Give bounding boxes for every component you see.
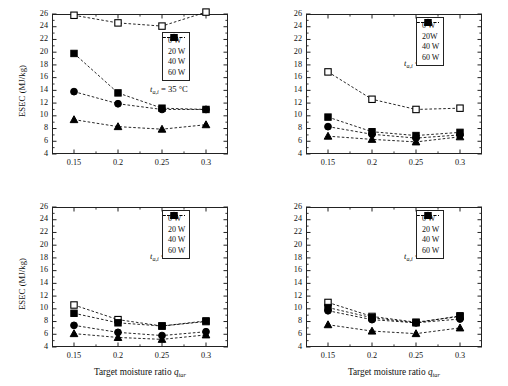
- x-tick-label: 0.3: [442, 158, 478, 167]
- axis-ticks: [52, 14, 228, 154]
- y-tick-label: 4: [280, 149, 302, 158]
- y-tick-label: 22: [26, 227, 48, 236]
- legend-item-40w[interactable]: 40 W: [420, 235, 439, 246]
- axis-ticks: [306, 207, 482, 347]
- legend-label: 20 W: [168, 225, 185, 234]
- y-tick-label: 6: [280, 136, 302, 145]
- legend-label: 40 W: [422, 235, 439, 244]
- legend-item-20w[interactable]: 20 W: [420, 224, 439, 235]
- legend-item-60w[interactable]: 60 W: [420, 52, 439, 63]
- x-tick-label: 0.2: [354, 351, 390, 360]
- y-tick-label: 16: [26, 72, 48, 81]
- legend-item-40w[interactable]: 40 W: [420, 42, 439, 53]
- x-tick-label: 0.3: [188, 351, 224, 360]
- data-point-marker: [158, 125, 166, 132]
- legend-item-20w[interactable]: 20W: [420, 31, 439, 42]
- legend-marker-filled-triangle: [163, 33, 185, 42]
- data-point-marker: [71, 302, 77, 308]
- y-tick-label: 16: [26, 265, 48, 274]
- x-tick-label: 0.25: [144, 351, 180, 360]
- y-tick-label: 10: [280, 110, 302, 119]
- y-tick-label: 10: [26, 303, 48, 312]
- legend-marker-filled-triangle: [163, 211, 185, 220]
- x-tick-label: 0.3: [442, 351, 478, 360]
- legend-label: 60 W: [422, 53, 439, 62]
- data-point-marker: [324, 321, 332, 328]
- plot-legend: 0 W20 W40 W60 W: [162, 32, 190, 81]
- data-point-marker: [325, 123, 332, 130]
- legend-item-60w[interactable]: 60 W: [166, 67, 185, 78]
- figure-esec-moisture-ratio: 4681012141618202224260.150.20.250.3ESEC …: [0, 0, 508, 386]
- data-point-marker: [325, 114, 331, 120]
- data-point-marker: [203, 9, 209, 15]
- y-tick-label: 12: [26, 98, 48, 107]
- data-point-marker: [413, 319, 420, 326]
- legend-item-60w[interactable]: 60 W: [166, 245, 185, 256]
- x-axis-label: Target moisture ratio qtar: [306, 367, 482, 378]
- y-tick-label: 16: [280, 72, 302, 81]
- y-tick-label: 26: [26, 9, 48, 18]
- data-point-marker: [324, 132, 332, 139]
- chart-panel-panel-c: 4681012141618202224260.150.20.250.3ESEC …: [0, 193, 254, 386]
- y-tick-label: 22: [280, 227, 302, 236]
- chart-panel-panel-b: 4681012141618202224260.150.20.250.3ta,i …: [254, 0, 508, 193]
- data-point-marker: [115, 90, 121, 96]
- legend-item-20w[interactable]: 20 W: [166, 224, 185, 235]
- data-point-marker: [70, 330, 78, 337]
- y-tick-label: 20: [26, 47, 48, 56]
- x-axis-label: Target moisture ratio qtar: [52, 367, 228, 378]
- series-40w: [71, 322, 210, 339]
- legend-label: 20W: [422, 32, 438, 41]
- x-tick-label: 0.2: [354, 158, 390, 167]
- axis-ticks: [52, 207, 228, 347]
- data-point-marker: [115, 20, 121, 26]
- y-tick-label: 8: [26, 123, 48, 132]
- x-tick-label: 0.15: [310, 158, 346, 167]
- legend-item-20w[interactable]: 20 W: [166, 46, 185, 57]
- data-point-marker: [369, 96, 375, 102]
- y-tick-label: 10: [26, 110, 48, 119]
- series-60w: [324, 321, 464, 337]
- y-tick-label: 22: [280, 34, 302, 43]
- plot-legend: 0 W20W40 W60 W: [416, 17, 444, 66]
- data-point-marker: [71, 310, 77, 316]
- data-point-marker: [159, 323, 165, 329]
- x-tick-label: 0.15: [310, 351, 346, 360]
- x-tick-label: 0.25: [398, 158, 434, 167]
- y-tick-label: 6: [26, 329, 48, 338]
- data-point-marker: [202, 121, 210, 128]
- series-60w: [70, 330, 210, 343]
- data-point-marker: [159, 106, 166, 113]
- legend-item-40w[interactable]: 40 W: [166, 235, 185, 246]
- data-point-marker: [413, 106, 419, 112]
- chart-panel-panel-d: 4681012141618202224260.150.20.250.3Targe…: [254, 193, 508, 386]
- y-tick-label: 22: [26, 34, 48, 43]
- data-point-marker: [71, 12, 77, 18]
- data-point-marker: [456, 324, 464, 331]
- y-tick-label: 4: [280, 342, 302, 351]
- y-tick-label: 6: [280, 329, 302, 338]
- y-tick-label: 16: [280, 265, 302, 274]
- data-point-marker: [71, 88, 78, 95]
- x-tick-label: 0.25: [398, 351, 434, 360]
- legend-label: 60 W: [422, 246, 439, 255]
- y-tick-label: 12: [26, 291, 48, 300]
- y-tick-label: 18: [26, 60, 48, 69]
- legend-item-60w[interactable]: 60 W: [420, 245, 439, 256]
- series-40w: [325, 123, 464, 141]
- x-tick-label: 0.2: [100, 158, 136, 167]
- y-tick-label: 12: [280, 98, 302, 107]
- y-tick-label: 14: [280, 278, 302, 287]
- legend-label: 40 W: [168, 235, 185, 244]
- y-tick-label: 26: [280, 9, 302, 18]
- legend-label: 20 W: [422, 225, 439, 234]
- data-point-marker: [71, 322, 78, 329]
- series-0w: [71, 9, 209, 29]
- y-tick-label: 18: [280, 60, 302, 69]
- series-0w: [71, 302, 209, 329]
- series-20w: [325, 114, 463, 139]
- data-point-marker: [115, 320, 121, 326]
- legend-item-40w[interactable]: 40 W: [166, 57, 185, 68]
- chart-panel-panel-a: 4681012141618202224260.150.20.250.3ESEC …: [0, 0, 254, 193]
- plot-legend: 0 W20 W40 W60 W: [162, 210, 190, 259]
